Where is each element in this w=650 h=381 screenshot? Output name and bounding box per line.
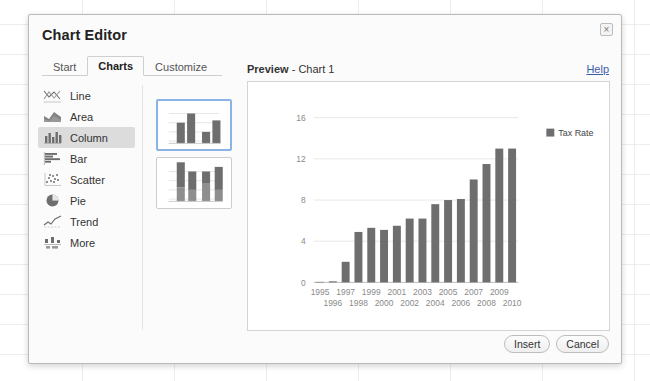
tab-start[interactable]: Start [42,57,87,76]
thumbnail-graphic [159,160,229,206]
dialog-title: Chart Editor [42,27,127,43]
area-chart-icon [43,109,62,124]
cancel-button[interactable]: Cancel [556,335,609,353]
x-axis-tick-label: 1999 [362,287,381,297]
chart-type-column[interactable]: Column [38,127,135,148]
x-axis-tick-label: 2003 [413,287,432,297]
tab-customize[interactable]: Customize [144,57,218,76]
chart-bar [431,204,439,282]
trend-chart-icon [43,214,62,229]
y-axis-tick-label: 8 [301,195,306,205]
preview-title: Preview - Chart 1 [247,63,334,75]
chart-type-bar[interactable]: Bar [38,148,135,169]
y-axis-tick-label: 16 [296,113,306,123]
grouped-column-thumbnail[interactable] [156,99,232,151]
chart-bar [457,199,465,282]
chart-bar [342,262,350,283]
x-axis-tick-label: 2004 [426,298,445,308]
chart-type-scatter[interactable]: Scatter [38,169,135,190]
x-axis-tick-label: 2009 [490,287,509,297]
chart-bar [406,219,414,283]
x-axis-tick-label: 2007 [464,287,483,297]
close-icon[interactable]: × [600,23,613,36]
chart-bar [444,200,452,282]
tab-bar: StartChartsCustomize [42,55,222,76]
x-axis-tick-label: 2002 [400,298,419,308]
chart-type-line[interactable]: Line [38,85,135,106]
x-axis-tick-label: 1995 [311,287,330,297]
chart-bar [367,228,375,283]
chart-type-trend[interactable]: Trend [38,211,135,232]
chart-bar [508,149,516,283]
thumbnail-graphic [159,102,229,148]
line-chart-icon [43,88,62,103]
chart-editor-dialog: Chart Editor × StartChartsCustomize Line… [28,14,622,364]
chart-bar [354,232,362,282]
preview-label: Preview [247,63,289,75]
chart-legend: Tax Rate [546,128,593,138]
chart-bar [393,226,401,283]
chart-bar [495,149,503,283]
bar-chart-icon [43,151,62,166]
chart-type-label: Bar [70,153,87,165]
chart-preview-panel: 0481216199519961997199819992000200120022… [247,81,610,331]
list-divider [142,85,143,330]
y-axis-tick-label: 0 [301,278,306,288]
chart-type-pie[interactable]: Pie [38,190,135,211]
chart-type-more[interactable]: More [38,232,135,253]
y-axis-tick-label: 4 [301,236,306,246]
scatter-chart-icon [43,172,62,187]
chart-type-area[interactable]: Area [38,106,135,127]
chart-type-list: LineAreaColumnBarScatterPieTrendMore [38,85,135,253]
chart-bar [316,282,324,283]
chart-bar [419,219,427,283]
y-axis-tick-label: 12 [296,154,306,164]
chart-type-label: Trend [70,216,98,228]
x-axis-tick-label: 1996 [323,298,342,308]
chart-type-label: Scatter [70,174,105,186]
chart-bar [380,230,388,282]
help-link[interactable]: Help [586,63,609,75]
chart-type-label: Area [70,111,93,123]
x-axis-tick-label: 2005 [439,287,458,297]
x-axis-tick-label: 2000 [375,298,394,308]
x-axis-tick-label: 1997 [336,287,355,297]
preview-chart-name: Chart 1 [298,63,334,75]
x-axis-tick-label: 2010 [503,298,522,308]
stacked-column-thumbnail[interactable] [156,157,232,209]
chart-type-label: Column [70,132,108,144]
pie-chart-icon [43,193,62,208]
x-axis-tick-label: 2006 [451,298,470,308]
preview-separator: - [289,63,299,75]
preview-chart: 0481216199519961997199819992000200120022… [248,82,609,330]
chart-type-label: Line [70,90,91,102]
chart-type-label: Pie [70,195,86,207]
chart-variant-thumbnails [156,99,232,215]
x-axis-tick-label: 2008 [477,298,496,308]
chart-bar [329,281,337,282]
tab-charts[interactable]: Charts [87,56,144,76]
dialog-footer: Insert Cancel [504,335,609,353]
column-chart-icon [43,130,62,145]
x-axis-tick-label: 1998 [349,298,368,308]
chart-type-label: More [70,237,95,249]
legend-swatch [546,129,554,137]
x-axis-tick-label: 2001 [387,287,406,297]
preview-header: Preview - Chart 1 Help [247,63,609,77]
chart-bar [470,179,478,282]
insert-button[interactable]: Insert [504,335,550,353]
more-charts-icon [43,235,62,250]
chart-bar [483,164,491,282]
legend-label: Tax Rate [558,128,593,138]
